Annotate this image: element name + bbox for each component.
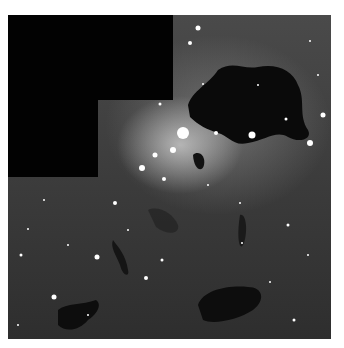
star bbox=[307, 254, 309, 256]
star bbox=[321, 113, 326, 118]
star bbox=[309, 40, 311, 42]
chip-mask-left bbox=[8, 100, 98, 177]
star bbox=[127, 229, 129, 231]
star bbox=[241, 242, 243, 244]
star bbox=[207, 184, 209, 186]
star bbox=[307, 140, 313, 146]
right-globule bbox=[238, 215, 246, 247]
star bbox=[144, 276, 148, 280]
star bbox=[170, 147, 176, 153]
chip-mask-top bbox=[8, 15, 173, 100]
star bbox=[95, 255, 100, 260]
small-globule-1 bbox=[193, 153, 204, 169]
bottom-left-globule bbox=[58, 300, 99, 330]
star bbox=[249, 132, 256, 139]
star bbox=[239, 202, 241, 204]
star bbox=[159, 103, 162, 106]
mid-globule bbox=[148, 208, 178, 232]
star bbox=[161, 259, 164, 262]
star bbox=[317, 74, 319, 76]
star bbox=[287, 224, 290, 227]
star bbox=[20, 254, 23, 257]
star bbox=[202, 83, 204, 85]
streamer-globule bbox=[112, 240, 128, 275]
star bbox=[139, 165, 145, 171]
star bbox=[214, 131, 218, 135]
main-dust-cloud bbox=[188, 65, 309, 143]
nebula-image bbox=[8, 15, 331, 339]
star bbox=[285, 118, 288, 121]
star bbox=[177, 127, 189, 139]
star bbox=[52, 295, 57, 300]
star bbox=[257, 84, 259, 86]
star bbox=[17, 324, 19, 326]
star bbox=[153, 153, 158, 158]
star bbox=[162, 177, 166, 181]
star bbox=[43, 199, 45, 201]
star bbox=[27, 228, 29, 230]
star bbox=[293, 319, 296, 322]
star bbox=[188, 41, 192, 45]
star bbox=[269, 281, 271, 283]
star bbox=[113, 201, 117, 205]
star bbox=[196, 26, 201, 31]
star bbox=[67, 244, 69, 246]
star bbox=[87, 314, 89, 316]
bottom-right-globule bbox=[198, 287, 261, 322]
